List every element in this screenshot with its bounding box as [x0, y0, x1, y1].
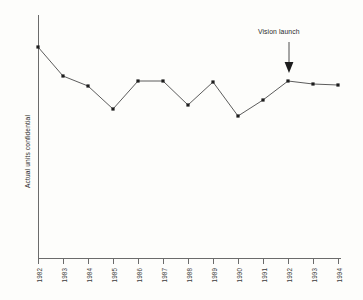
data-point [261, 98, 264, 101]
x-tick-label-1982: 1982 [36, 268, 43, 283]
data-point [186, 103, 189, 106]
x-tick-label-1994: 1994 [336, 268, 343, 283]
x-tick-label-1986: 1986 [136, 268, 143, 283]
x-tick-label-1992: 1992 [286, 268, 293, 283]
x-tick-label-1985: 1985 [111, 268, 118, 283]
x-tick-label-1984: 1984 [86, 268, 93, 283]
x-axis-ticks [39, 259, 339, 265]
x-tick-label-1991: 1991 [261, 268, 268, 283]
data-point [111, 107, 114, 110]
data-point [236, 114, 239, 117]
data-point [336, 83, 339, 86]
vision-launch-annotation: Vision launch [258, 28, 300, 73]
data-point [61, 74, 64, 77]
x-tick-label-1988: 1988 [186, 268, 193, 283]
data-point [86, 84, 89, 87]
arrow-down-icon [285, 62, 294, 73]
x-tick-label-1987: 1987 [161, 268, 168, 283]
data-point [311, 82, 314, 85]
x-tick-label-1990: 1990 [236, 268, 243, 283]
data-point [211, 80, 214, 83]
chart-figure: Vision launch Actual units confidential … [0, 0, 363, 300]
data-point [161, 79, 164, 82]
data-point [36, 45, 39, 48]
line-chart: Vision launch Actual units confidential … [0, 0, 363, 300]
data-point [136, 79, 139, 82]
y-axis-title: Actual units confidential [24, 115, 31, 188]
x-tick-label-1993: 1993 [311, 268, 318, 283]
x-tick-label-1989: 1989 [211, 268, 218, 283]
data-point [286, 79, 289, 82]
x-tick-label-1983: 1983 [61, 268, 68, 283]
annotation-label: Vision launch [258, 28, 300, 35]
